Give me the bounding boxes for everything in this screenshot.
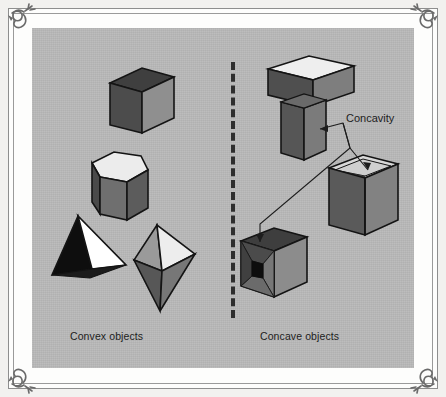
shape-cube <box>110 68 174 133</box>
shape-dimpled-cube <box>241 228 307 297</box>
shape-open-box <box>329 155 398 235</box>
figure-root: Concavity Convex objects Concave objects <box>0 0 446 397</box>
illustration-plate: Concavity Convex objects Concave objects <box>32 28 414 368</box>
caption-convex-objects: Convex objects <box>70 330 143 342</box>
shapes-canvas <box>32 28 414 368</box>
shape-tetrahedron <box>52 216 126 278</box>
shape-t-shaped-block <box>268 56 354 160</box>
shape-hexagonal-prism <box>92 152 148 220</box>
caption-concave-objects: Concave objects <box>260 330 339 342</box>
shape-bipyramid <box>134 225 195 311</box>
concavity-label: Concavity <box>346 112 394 124</box>
